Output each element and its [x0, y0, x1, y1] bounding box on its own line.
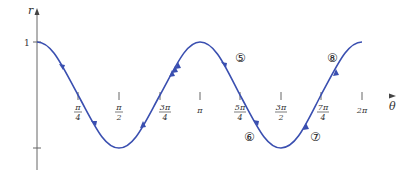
tick-label-pi-4: π 4 [74, 103, 82, 122]
annotation-5: ⑤ [235, 51, 246, 65]
tick-label-3pi-2: 3π 2 [275, 103, 287, 122]
svg-text:4: 4 [74, 113, 80, 122]
y-axis-arrow-icon [35, 8, 40, 15]
tick-label-7pi-4: 7π 4 [317, 103, 329, 122]
tick-label-pi-2: π 2 [115, 103, 123, 122]
annotation-7: ⑦ [310, 130, 321, 144]
svg-text:4: 4 [319, 113, 325, 122]
arrow-icon [221, 62, 227, 68]
y-tick-label-1: 1 [24, 38, 30, 48]
svg-text:4: 4 [236, 113, 242, 122]
svg-text:4: 4 [161, 113, 167, 122]
annotation-8: ⑧ [327, 51, 338, 65]
svg-text:π: π [74, 103, 81, 112]
chart: r θ 1 π 4 π 2 3π 4 π 5π 4 3π 2 7π 4 2π [0, 0, 418, 176]
x-axis-arrow-icon [389, 94, 396, 99]
y-axis-label: r [28, 4, 34, 17]
svg-text:π: π [115, 103, 122, 112]
annotation-6: ⑥ [244, 130, 255, 144]
svg-text:2: 2 [277, 113, 283, 122]
svg-text:3π: 3π [276, 103, 287, 112]
x-axis-label: θ [389, 100, 396, 113]
svg-text:3π: 3π [160, 103, 171, 112]
tick-label-2pi: 2π [356, 106, 368, 115]
tick-label-pi: π [196, 106, 203, 115]
tick-label-3pi-4: 3π 4 [159, 103, 171, 122]
tick-label-5pi-4: 5π 4 [234, 103, 246, 122]
svg-text:7π: 7π [318, 103, 329, 112]
svg-text:2: 2 [115, 113, 121, 122]
